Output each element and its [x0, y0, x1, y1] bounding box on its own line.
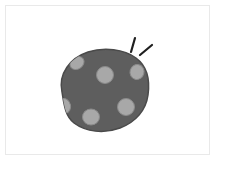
illustration-artboard [0, 0, 228, 170]
sparkle-stroke-vertical [131, 38, 135, 52]
sparkle-stroke-diagonal [140, 45, 152, 55]
spot-bottom-center [83, 109, 100, 125]
sparkle-strokes [131, 38, 152, 55]
image-canvas [0, 0, 228, 170]
spot-center-top [97, 67, 114, 84]
spot-right-lower [118, 99, 135, 116]
